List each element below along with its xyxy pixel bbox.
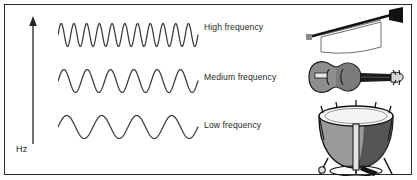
wave-high-frequency <box>58 18 200 52</box>
label-low-frequency: Low frequency <box>204 120 261 130</box>
label-medium-frequency: Medium frequency <box>204 72 276 82</box>
label-high-frequency: High frequency <box>204 22 263 32</box>
trumpet-icon <box>305 6 409 54</box>
wave-medium-frequency <box>58 64 200 98</box>
wave-low-frequency <box>58 110 200 144</box>
hz-axis-label: Hz <box>16 144 27 154</box>
frequency-axis <box>22 14 44 146</box>
violin-icon <box>303 56 411 98</box>
timpani-drum-icon <box>306 100 406 176</box>
frequency-diagram: Hz High frequency Medium frequency Low f… <box>0 0 417 180</box>
